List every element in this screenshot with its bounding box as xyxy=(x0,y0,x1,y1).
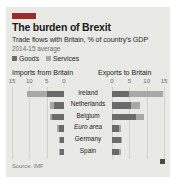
tick-label-right-15: 15 xyxy=(161,78,168,84)
bar-right-spain xyxy=(112,149,121,156)
category-label-gutter: IrelandNetherlandsBelgiumEuro areaGerman… xyxy=(64,87,112,159)
category-label: Ireland xyxy=(64,89,112,97)
segment-goods xyxy=(112,149,119,156)
chart-card: The burden of Brexit Trade flows with Br… xyxy=(6,7,170,177)
axis-title-left: Imports from Britain xyxy=(12,69,73,76)
segment-goods xyxy=(112,125,119,132)
bar-left-netherlands xyxy=(50,102,64,109)
source-label: Source: IMF xyxy=(12,163,44,169)
segment-goods xyxy=(112,91,129,98)
category-label: Netherlands xyxy=(64,100,112,108)
category-label: Spain xyxy=(64,147,112,155)
bar-left-ireland xyxy=(27,91,64,98)
segment-services xyxy=(131,102,140,109)
tick-label-left-0: 0 xyxy=(62,78,65,84)
chart-title: The burden of Brexit xyxy=(12,22,164,33)
category-label: Belgium xyxy=(64,112,112,120)
corner-mark xyxy=(160,159,165,164)
tick-label-left-5: 5 xyxy=(45,78,48,84)
segment-goods xyxy=(112,114,136,121)
segment-services xyxy=(121,137,122,144)
chart-subtitle: Trade flows with Britain, % of country's… xyxy=(12,36,166,44)
tick-label-right-10: 10 xyxy=(143,78,150,84)
segment-goods xyxy=(112,102,131,109)
bar-left-belgium xyxy=(50,114,64,121)
axis-title-right: Exports to Britain xyxy=(98,69,151,76)
segment-goods xyxy=(47,91,64,98)
segment-services xyxy=(136,114,144,121)
tick-label-right-5: 5 xyxy=(128,78,131,84)
axis-tick-labels: 151050051015 xyxy=(6,78,170,86)
brand-tag xyxy=(12,13,36,19)
bar-right-belgium xyxy=(112,114,144,121)
segment-services xyxy=(119,125,121,132)
segment-services xyxy=(27,91,46,98)
chart-note: 2014-15 average xyxy=(12,45,166,52)
legend-label-services: Services xyxy=(53,55,79,62)
tick-label-left-10: 10 xyxy=(26,78,33,84)
segment-goods xyxy=(54,102,64,109)
bar-right-netherlands xyxy=(112,102,140,109)
segment-services xyxy=(129,91,162,98)
bar-right-germany xyxy=(112,137,122,144)
category-label: Euro area xyxy=(64,123,112,131)
bar-left-euro-area xyxy=(57,125,64,132)
category-label: Germany xyxy=(64,135,112,143)
legend-item-goods: Goods xyxy=(12,55,39,62)
legend-label-goods: Goods xyxy=(19,55,39,62)
segment-goods xyxy=(52,114,64,121)
bar-right-euro-area xyxy=(112,125,121,132)
tick-label-left-15: 15 xyxy=(9,78,16,84)
segment-services xyxy=(119,149,121,156)
axis-titles: Imports from Britain Exports to Britain xyxy=(6,69,170,78)
chart-legend: Goods Services xyxy=(12,55,79,62)
legend-swatch-services xyxy=(46,56,51,61)
legend-swatch-goods xyxy=(12,56,17,61)
legend-item-services: Services xyxy=(46,55,79,62)
tick-label-right-0: 0 xyxy=(110,78,113,84)
bar-right-ireland xyxy=(112,91,163,98)
segment-goods xyxy=(112,137,121,144)
